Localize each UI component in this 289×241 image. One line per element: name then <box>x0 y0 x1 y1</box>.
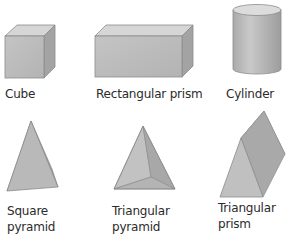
label-square-pyramid-line1: Square <box>7 204 48 219</box>
rectangular-prism-figure <box>95 25 193 77</box>
triangular-prism-figure <box>220 111 285 197</box>
triangular-pyramid-figure <box>114 126 175 189</box>
square-pyramid-figure <box>7 121 58 191</box>
label-rectangular-prism: Rectangular prism <box>96 87 203 102</box>
label-triangular-prism-line2: prism <box>218 217 251 232</box>
cube-figure <box>5 25 55 78</box>
label-triangular-pyramid-line1: Triangular <box>112 204 170 219</box>
label-square-pyramid-line2: pyramid <box>7 220 55 235</box>
cylinder-figure <box>233 5 281 75</box>
label-cylinder: Cylinder <box>226 87 274 102</box>
label-triangular-pyramid-line2: pyramid <box>112 220 160 235</box>
label-cube: Cube <box>5 87 35 102</box>
label-triangular-prism-line1: Triangular <box>218 201 276 216</box>
